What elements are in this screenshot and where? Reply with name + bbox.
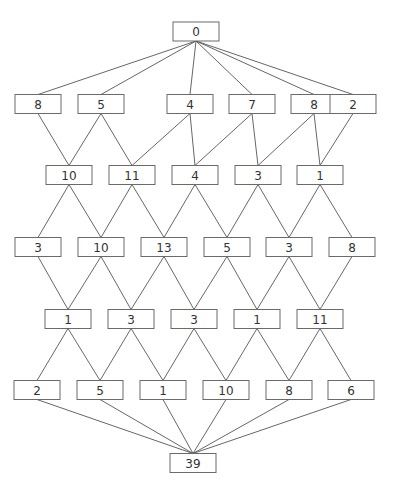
node-label: 13 [156, 241, 171, 255]
row-4-node-5: 11 [297, 310, 343, 329]
edge [38, 257, 68, 310]
node-label: 5 [97, 98, 105, 112]
edge [132, 185, 164, 238]
edge [38, 114, 69, 166]
row-4-node-4: 1 [234, 310, 280, 329]
edge [320, 329, 351, 381]
row-1-node-6: 2 [330, 95, 376, 114]
edge [132, 114, 190, 166]
node-label: 11 [312, 313, 327, 327]
edge [258, 185, 289, 238]
edge [101, 41, 196, 95]
row-2-node-1: 10 [46, 166, 92, 185]
node-label: 1 [253, 313, 261, 327]
edge [289, 257, 320, 310]
edge [190, 41, 196, 95]
edge [68, 329, 100, 381]
row-2-node-3: 4 [172, 166, 218, 185]
node-label: 8 [348, 241, 356, 255]
row-3-node-3: 13 [141, 238, 187, 257]
edge [164, 257, 194, 310]
node-label: 3 [285, 241, 293, 255]
row-5-node-4: 10 [203, 381, 249, 400]
row-5-node-1: 2 [14, 381, 60, 400]
row-1-node-3: 4 [167, 95, 213, 114]
edge [190, 114, 195, 166]
edge [193, 400, 289, 454]
node-label: 10 [61, 169, 76, 183]
node-label: 0 [192, 25, 200, 39]
node-label: 8 [310, 98, 318, 112]
edge [257, 329, 289, 381]
edge [131, 257, 164, 310]
node-label: 3 [190, 313, 198, 327]
node-label: 2 [33, 384, 41, 398]
layered-number-diagram: 0854782101143131013538133111251108639 [0, 0, 393, 490]
node-label: 11 [124, 169, 139, 183]
edge [101, 185, 132, 238]
row-1-node-2: 5 [78, 95, 124, 114]
row-3-node-1: 3 [15, 238, 61, 257]
edge [196, 41, 353, 95]
row-2-node-5: 1 [297, 166, 343, 185]
node-label: 6 [347, 384, 355, 398]
edge [68, 257, 101, 310]
row-4-node-3: 3 [171, 310, 217, 329]
edge [193, 400, 351, 454]
bottom-node: 39 [170, 454, 216, 473]
edge [38, 41, 196, 95]
node-label: 39 [185, 457, 200, 471]
node-label: 8 [34, 98, 42, 112]
edge [227, 185, 258, 238]
edge [320, 257, 352, 310]
edge [37, 400, 193, 454]
node-label: 5 [96, 384, 104, 398]
node-label: 3 [127, 313, 135, 327]
edge [252, 114, 258, 166]
node-label: 4 [186, 98, 194, 112]
edge [37, 329, 68, 381]
edge [289, 185, 320, 238]
edge [289, 329, 320, 381]
node-label: 10 [93, 241, 108, 255]
node-label: 7 [248, 98, 256, 112]
row-5-node-6: 6 [328, 381, 374, 400]
edge [101, 257, 131, 310]
edge [320, 114, 353, 166]
row-3-node-4: 5 [204, 238, 250, 257]
row-3-node-6: 8 [329, 238, 375, 257]
node-label: 5 [223, 241, 231, 255]
edge [320, 185, 352, 238]
edge [194, 329, 226, 381]
edge [69, 185, 101, 238]
row-5-node-3: 1 [140, 381, 186, 400]
node-label: 1 [159, 384, 167, 398]
node-label: 10 [218, 384, 233, 398]
node-label: 4 [191, 169, 199, 183]
row-5-node-5: 8 [266, 381, 312, 400]
row-2-node-2: 11 [109, 166, 155, 185]
edge [164, 185, 195, 238]
edge [257, 257, 289, 310]
node-label: 8 [285, 384, 293, 398]
edge [69, 114, 101, 166]
edge [193, 400, 226, 454]
edge [314, 114, 320, 166]
row-1-node-4: 7 [229, 95, 275, 114]
edge [226, 329, 257, 381]
edge [163, 400, 193, 454]
edge [38, 185, 69, 238]
edge [258, 114, 314, 166]
row-4-node-2: 3 [108, 310, 154, 329]
edge [196, 41, 252, 95]
node-label: 2 [349, 98, 357, 112]
edge [100, 329, 131, 381]
edge [195, 185, 227, 238]
nodes: 0854782101143131013538133111251108639 [14, 22, 376, 473]
row-3-node-5: 3 [266, 238, 312, 257]
row-1-node-1: 8 [15, 95, 61, 114]
edge [196, 41, 314, 95]
edge [195, 114, 252, 166]
edge [101, 114, 132, 166]
edge [227, 257, 257, 310]
